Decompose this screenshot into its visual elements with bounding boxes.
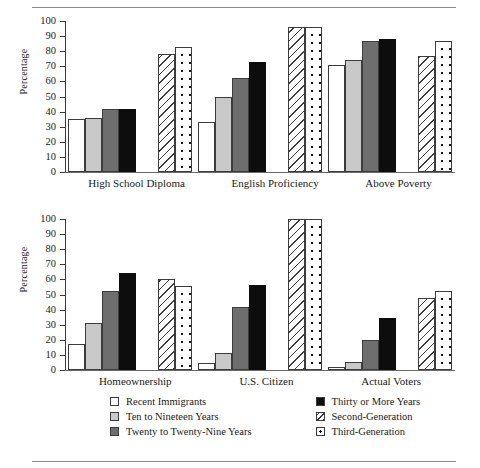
y-tick-label: 100 [16,214,56,225]
bar [435,291,452,370]
bar-subgroup-immigrant-tenure [68,21,136,172]
x-axis-line-top [65,172,455,173]
bottom-divider-rule [32,461,456,462]
bar [345,60,362,172]
y-tick-mark [60,370,65,371]
bar-subgroup-immigrant-tenure [328,219,396,370]
bar [175,47,192,172]
bar [158,279,175,370]
bar [362,41,379,172]
y-tick-label: 40 [16,107,56,118]
bar-group [198,21,322,172]
subgroup-gap [396,171,418,172]
y-tick-label: 80 [16,244,56,255]
legend-item: Second-Generation [316,411,421,422]
y-tick-label: 70 [16,61,56,72]
legend-item: Twenty to Twenty-Nine Years [110,426,252,437]
legend-swatch-icon [110,412,119,421]
legend-item-label: Second-Generation [332,411,413,422]
y-tick-label: 100 [16,16,56,27]
bar [418,56,435,172]
bar [215,353,232,370]
bar-group [68,219,192,370]
legend-item: Recent Immigrants [110,396,252,407]
bar [362,340,379,370]
y-tick-label: 90 [16,31,56,42]
x-axis-group-label: Above Poverty [365,177,431,189]
bar-group [328,21,452,172]
y-tick-label: 40 [16,305,56,316]
bar [249,62,266,172]
chart-panel-top: Percentage 1009080706050403020100 High S… [0,14,480,184]
bar [119,273,136,370]
subgroup-gap [266,171,288,172]
y-tick-label: 50 [16,290,56,301]
subgroup-gap [266,369,288,370]
legend-item: Third-Generation [316,426,421,437]
subgroup-gap [136,369,158,370]
bar [68,344,85,370]
bar-subgroup-generation [158,219,192,370]
legend-item: Thirty or More Years [316,396,421,407]
legend-item-label: Third-Generation [332,426,405,437]
y-tick-label: 50 [16,92,56,103]
legend-item-label: Ten to Nineteen Years [126,411,219,422]
bar [379,39,396,172]
legend-item-label: Twenty to Twenty-Nine Years [126,426,252,437]
bar-groups-top [65,21,455,172]
bar [102,109,119,172]
chart-panel-bottom: Percentage 1009080706050403020100 Homeow… [0,212,480,382]
bar [215,97,232,172]
bar [288,219,305,370]
x-axis-group-label: High School Diploma [88,177,185,189]
bar [305,27,322,172]
subgroup-gap [136,171,158,172]
chart-legend: Recent ImmigrantsTen to Nineteen YearsTw… [110,396,460,437]
bar [379,318,396,370]
bar-subgroup-generation [158,21,192,172]
bar [175,286,192,370]
x-axis-group-label: English Proficiency [232,177,319,189]
x-axis-labels-top: High School DiplomaEnglish ProficiencyAb… [65,177,455,189]
bar-subgroup-generation [288,219,322,370]
top-divider-rule [32,7,456,8]
subgroup-gap [396,369,418,370]
bar [232,307,249,370]
bar [85,323,102,370]
x-axis-group-label: Actual Voters [361,375,421,387]
bar [102,291,119,370]
bar [328,65,345,172]
y-tick-label: 30 [16,122,56,133]
y-tick-label: 10 [16,350,56,361]
y-tick-label: 60 [16,274,56,285]
bar [158,54,175,172]
plot-area-bottom: 1009080706050403020100 [65,219,455,370]
bar [119,109,136,172]
bar [328,367,345,370]
bar [198,363,215,370]
bar-subgroup-immigrant-tenure [328,21,396,172]
legend-swatch-icon [316,397,325,406]
y-tick-label: 30 [16,320,56,331]
legend-swatch-icon [110,397,119,406]
figure: Percentage 1009080706050403020100 High S… [0,0,480,468]
bar-group [68,21,192,172]
y-tick-label: 20 [16,335,56,346]
bar [232,78,249,172]
bar-subgroup-immigrant-tenure [198,21,266,172]
bar-subgroup-immigrant-tenure [68,219,136,370]
bar-subgroup-generation [418,21,452,172]
y-tick-label: 10 [16,152,56,163]
legend-swatch-icon [110,427,119,436]
y-tick-label: 0 [16,365,56,376]
bar [249,285,266,370]
legend-column-right: Thirty or More YearsSecond-GenerationThi… [316,396,421,437]
bar [288,27,305,172]
x-axis-line-bottom [65,370,455,371]
bar [198,122,215,172]
legend-item-label: Recent Immigrants [126,396,206,407]
legend-item-label: Thirty or More Years [332,396,421,407]
y-tick-label: 70 [16,259,56,270]
bar-groups-bottom [65,219,455,370]
bar-group [328,219,452,370]
